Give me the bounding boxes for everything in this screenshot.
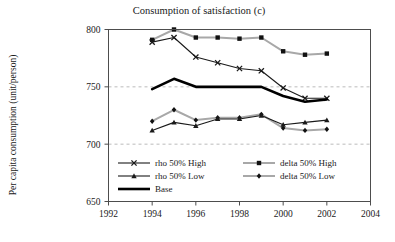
x-tick-label: 1998: [230, 209, 249, 219]
consumption-line-chart: Consumption of satisfaction (c) Per capi…: [0, 0, 395, 242]
x-tick-label: 1996: [186, 209, 205, 219]
legend-item: rho 50% Low: [118, 171, 205, 181]
y-axis-title-group: Per capita consumption (unit/person): [8, 55, 19, 196]
series-delta-50-high: [150, 27, 329, 57]
y-axis-title: Per capita consumption (unit/person): [8, 55, 19, 196]
chart-title-group: Consumption of satisfaction (c): [133, 5, 266, 17]
data-point: [325, 127, 330, 132]
legend-label: Base: [155, 184, 173, 194]
chart-legend: rho 50% Highrho 50% LowBasedelta 50% Hig…: [118, 158, 337, 194]
y-tick-label: 800: [86, 25, 101, 35]
y-tick-label: 650: [86, 197, 101, 207]
y-tick-label: 750: [86, 82, 101, 92]
data-point: [215, 35, 219, 39]
series-rho-50-high: [150, 35, 330, 101]
data-point: [259, 35, 263, 39]
legend-item: delta 50% High: [243, 158, 337, 168]
legend-label: rho 50% Low: [155, 171, 205, 181]
legend-item: rho 50% High: [118, 158, 206, 168]
x-tick-label: 1994: [143, 209, 162, 219]
legend-item: Base: [118, 184, 173, 194]
y-axis-ticks: 650700750800: [86, 25, 108, 207]
x-tick-label: 2004: [361, 209, 380, 219]
y-tick-label: 700: [86, 140, 101, 150]
data-point: [303, 128, 308, 133]
legend-item: delta 50% Low: [243, 171, 335, 181]
series-line: [152, 79, 327, 102]
data-point: [237, 36, 241, 40]
data-series-group: [149, 27, 329, 133]
data-point: [171, 120, 176, 125]
page-title: Consumption of satisfaction (c): [133, 5, 266, 17]
x-tick-label: 2002: [317, 209, 336, 219]
legend-label: delta 50% High: [280, 158, 337, 168]
x-tick-label: 1992: [99, 209, 118, 219]
data-point: [303, 53, 307, 57]
x-axis-ticks: 1992199419961998200020022004: [99, 202, 380, 219]
legend-label: delta 50% Low: [280, 171, 335, 181]
x-tick-label: 2000: [274, 209, 293, 219]
data-point: [194, 35, 198, 39]
chart-container: Consumption of satisfaction (c) Per capi…: [0, 0, 395, 242]
data-point: [257, 173, 262, 178]
data-point: [325, 51, 329, 55]
data-point: [257, 161, 261, 165]
legend-label: rho 50% High: [155, 158, 206, 168]
data-point: [194, 117, 199, 122]
data-point: [281, 49, 285, 53]
series-base: [152, 79, 327, 102]
